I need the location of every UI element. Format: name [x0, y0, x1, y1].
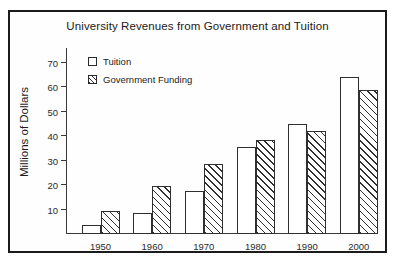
- bar-1990-government: [307, 131, 326, 234]
- y-tick-60: [61, 86, 66, 87]
- bar-group-1990: 1990: [288, 124, 326, 234]
- bar-1960-government: [152, 186, 171, 234]
- x-tick-label-1960: 1960: [142, 241, 163, 252]
- y-axis-line: [66, 48, 67, 234]
- y-tick-20: [61, 184, 66, 185]
- y-tick-label-50: 50: [47, 106, 58, 117]
- chart-legend: Tuition Government Funding: [88, 56, 192, 92]
- legend-swatch-tuition: [88, 57, 97, 66]
- bar-1950-tuition: [82, 225, 101, 234]
- x-tick-label-1970: 1970: [193, 241, 214, 252]
- bar-group-1950: 1950: [82, 211, 120, 234]
- x-tick-label-1950: 1950: [90, 241, 111, 252]
- legend-label-government: Government Funding: [103, 74, 192, 85]
- y-tick-label-20: 20: [47, 180, 58, 191]
- bar-2000-government: [359, 90, 378, 234]
- legend-swatch-government: [88, 75, 97, 84]
- y-tick-label-70: 70: [47, 57, 58, 68]
- bar-group-1980: 1980: [237, 140, 275, 234]
- x-tick-label-2000: 2000: [348, 241, 369, 252]
- y-tick-label-60: 60: [47, 82, 58, 93]
- bar-group-1960: 1960: [133, 186, 171, 234]
- x-tick-label-1990: 1990: [297, 241, 318, 252]
- legend-item-government: Government Funding: [88, 74, 192, 85]
- chart-title: University Revenues from Government and …: [10, 20, 385, 32]
- bar-1970-tuition: [185, 191, 204, 234]
- y-tick-label-30: 30: [47, 155, 58, 166]
- bar-2000-tuition: [340, 77, 359, 234]
- bar-group-1970: 1970: [185, 164, 223, 234]
- y-tick-70: [61, 62, 66, 63]
- x-tick-label-1980: 1980: [245, 241, 266, 252]
- legend-label-tuition: Tuition: [103, 56, 131, 67]
- bar-1980-tuition: [237, 147, 256, 234]
- y-tick-30: [61, 160, 66, 161]
- bar-1990-tuition: [288, 124, 307, 234]
- bar-1960-tuition: [133, 213, 152, 234]
- legend-item-tuition: Tuition: [88, 56, 192, 67]
- y-tick-50: [61, 111, 66, 112]
- bar-group-2000: 2000: [340, 77, 378, 234]
- y-tick-40: [61, 135, 66, 136]
- y-tick-label-40: 40: [47, 131, 58, 142]
- y-tick-10: [61, 209, 66, 210]
- y-axis-label: Millions of Dollars: [18, 86, 30, 176]
- y-tick-label-10: 10: [47, 204, 58, 215]
- bar-1950-government: [101, 211, 120, 234]
- plot-area: 10203040506070 Tuition Government Fundin…: [66, 48, 376, 234]
- bar-1970-government: [204, 164, 223, 234]
- bar-1980-government: [256, 140, 275, 234]
- chart-frame: University Revenues from Government and …: [8, 10, 387, 253]
